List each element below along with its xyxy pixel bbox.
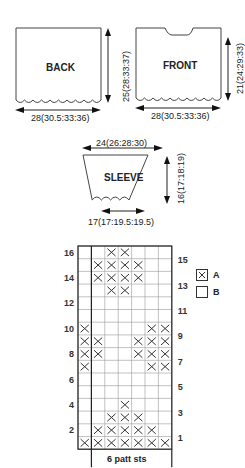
sleeve-bottom-dimension: 17(17:19.5:19.5) bbox=[88, 217, 154, 227]
row-number-right: 7 bbox=[178, 357, 183, 367]
stitch-x-mark bbox=[121, 414, 129, 422]
stitch-x-mark bbox=[121, 401, 129, 409]
stitch-x-mark bbox=[94, 426, 102, 434]
stitch-x-mark bbox=[121, 426, 129, 434]
stitch-x-mark bbox=[134, 414, 142, 422]
back-width-dimension: 28(30.5:33:36) bbox=[31, 113, 90, 123]
chart-footer-label: 6 patt sts bbox=[107, 454, 147, 464]
row-number-left: 16 bbox=[64, 248, 74, 258]
legend-blank-box-icon bbox=[196, 286, 208, 298]
stitch-x-mark bbox=[94, 274, 102, 282]
row-number-right: 15 bbox=[178, 255, 188, 265]
row-number-right: 3 bbox=[178, 408, 183, 418]
stitch-x-mark bbox=[107, 249, 115, 257]
stitch-x-mark bbox=[94, 261, 102, 269]
legend-label-b: B bbox=[213, 287, 220, 297]
sleeve-label: SLEEVE bbox=[104, 172, 143, 183]
back-label: BACK bbox=[46, 62, 75, 73]
row-number-left: 6 bbox=[69, 375, 74, 385]
stitch-x-mark bbox=[81, 325, 89, 333]
row-number-left: 8 bbox=[69, 349, 74, 359]
front-label: FRONT bbox=[163, 60, 197, 71]
stitch-x-mark bbox=[81, 439, 89, 447]
stitch-x-mark bbox=[148, 426, 156, 434]
row-number-right: 9 bbox=[178, 331, 183, 341]
stitch-x-mark bbox=[134, 261, 142, 269]
stitch-x-mark bbox=[107, 261, 115, 269]
stitch-x-mark bbox=[121, 287, 129, 295]
stitch-x-mark bbox=[148, 439, 156, 447]
stitch-x-mark bbox=[161, 338, 169, 346]
legend-item-a: A bbox=[196, 268, 220, 282]
stitch-x-mark bbox=[121, 274, 129, 282]
stitch-x-mark bbox=[121, 261, 129, 269]
sleeve-top-dimension: 24(26:28:30) bbox=[96, 138, 147, 148]
stitch-x-mark bbox=[161, 363, 169, 371]
stitch-x-mark bbox=[107, 287, 115, 295]
row-number-left: 10 bbox=[64, 324, 74, 334]
stitch-x-mark bbox=[107, 439, 115, 447]
stitch-x-mark bbox=[121, 439, 129, 447]
row-number-left: 4 bbox=[69, 400, 74, 410]
stitch-x-mark bbox=[107, 414, 115, 422]
front-width-dimension: 28(30.5:33:36) bbox=[151, 111, 210, 121]
stitch-x-mark bbox=[161, 325, 169, 333]
stitch-x-mark bbox=[148, 363, 156, 371]
sleeve-height-dimension: 16(17:18:19) bbox=[176, 153, 186, 204]
legend-item-b: B bbox=[196, 285, 220, 299]
stitch-x-mark bbox=[81, 363, 89, 371]
stitch-x-mark bbox=[107, 426, 115, 434]
stitch-x-mark bbox=[148, 325, 156, 333]
row-number-left: 14 bbox=[64, 273, 74, 283]
row-number-right: 5 bbox=[178, 382, 183, 392]
stitch-x-mark bbox=[161, 350, 169, 358]
stitch-x-mark bbox=[81, 350, 89, 358]
stitch-x-mark bbox=[134, 350, 142, 358]
stitch-x-mark bbox=[121, 249, 129, 257]
row-number-right: 1 bbox=[178, 433, 183, 443]
stitch-x-mark bbox=[94, 350, 102, 358]
stitch-x-mark bbox=[148, 350, 156, 358]
stitch-x-mark bbox=[161, 439, 169, 447]
stitch-x-mark bbox=[134, 338, 142, 346]
stitch-x-mark bbox=[134, 426, 142, 434]
stitch-x-mark bbox=[148, 338, 156, 346]
stitch-x-mark bbox=[81, 338, 89, 346]
stitch-x-mark bbox=[94, 439, 102, 447]
stitch-x-mark bbox=[134, 439, 142, 447]
front-height-dimension: 21(24:29:33) bbox=[235, 43, 245, 94]
legend-label-a: A bbox=[213, 270, 220, 280]
row-number-left: 12 bbox=[64, 298, 74, 308]
stitch-x-mark bbox=[94, 338, 102, 346]
row-number-right: 13 bbox=[178, 281, 188, 291]
stitch-x-mark bbox=[134, 274, 142, 282]
legend: A B bbox=[196, 268, 220, 299]
row-number-right: 11 bbox=[178, 306, 188, 316]
row-number-left: 2 bbox=[69, 425, 74, 435]
stitch-x-mark bbox=[107, 274, 115, 282]
legend-x-box-icon bbox=[196, 269, 208, 281]
